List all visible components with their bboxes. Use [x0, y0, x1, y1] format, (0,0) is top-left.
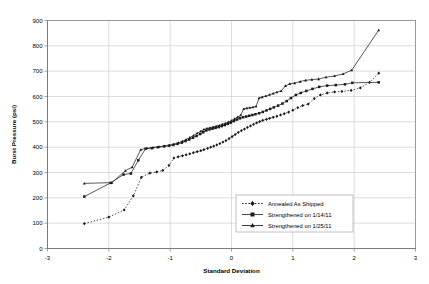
chart-canvas: 0100200300400500600700800900-3-2-10123St…	[0, 0, 429, 284]
y-tick-label: 400	[32, 144, 43, 150]
y-tick-label: 700	[32, 68, 43, 74]
legend-label: Strengthened on 1/25/11	[268, 223, 331, 229]
y-tick-label: 100	[32, 220, 43, 226]
y-axis-title: Burst Pressure (psi)	[10, 105, 17, 164]
legend-label: Annealed As Shipped	[268, 201, 323, 207]
gridlines	[48, 21, 416, 249]
y-tick-label: 500	[32, 119, 43, 125]
y-tick-label: 900	[32, 18, 43, 24]
x-tick-label: 0	[230, 255, 234, 261]
y-tick-label: 0	[39, 246, 43, 252]
x-tick-label: 3	[414, 255, 418, 261]
x-tick-label: -3	[45, 255, 51, 261]
y-tick-label: 300	[32, 170, 43, 176]
legend-label: Strengthened on 1/14/11	[268, 212, 331, 218]
y-tick-label: 800	[32, 43, 43, 49]
x-tick-label: -2	[106, 255, 112, 261]
chart-legend[interactable]: Annealed As ShippedStrengthened on 1/14/…	[236, 195, 353, 232]
y-tick-label: 600	[32, 94, 43, 100]
x-tick-label: -1	[167, 255, 173, 261]
burst-pressure-probability-chart: 0100200300400500600700800900-3-2-10123St…	[0, 0, 429, 284]
x-axis-title: Standard Deviation	[203, 267, 260, 274]
x-tick-label: 1	[291, 255, 295, 261]
axis-ticks	[45, 21, 416, 252]
x-tick-label: 2	[352, 255, 356, 261]
y-tick-label: 200	[32, 195, 43, 201]
